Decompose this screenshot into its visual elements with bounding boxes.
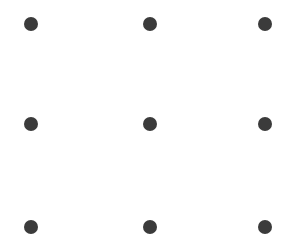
pattern-dot-r3-c3[interactable]: [258, 220, 272, 234]
pattern-dot-r2-c2[interactable]: [143, 117, 157, 131]
pattern-dot-r1-c3[interactable]: [258, 17, 272, 31]
pattern-dot-r3-c2[interactable]: [143, 220, 157, 234]
pattern-dot-r2-c1[interactable]: [24, 117, 38, 131]
pattern-dot-r2-c3[interactable]: [258, 117, 272, 131]
pattern-lock-grid: [0, 0, 298, 252]
pattern-dot-r1-c1[interactable]: [24, 17, 38, 31]
pattern-dot-r1-c2[interactable]: [143, 17, 157, 31]
pattern-dot-r3-c1[interactable]: [24, 220, 38, 234]
